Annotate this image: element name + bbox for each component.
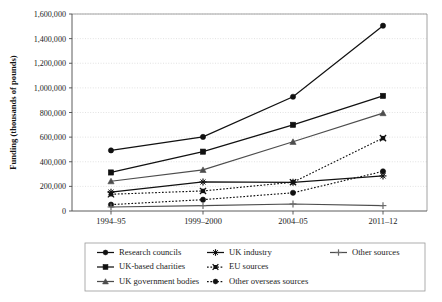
series-group xyxy=(108,93,385,175)
series-polyline xyxy=(111,138,383,194)
legend-entry-label: UK-based charities xyxy=(119,261,186,271)
legend-entry[interactable]: Research councils xyxy=(97,247,182,257)
y-tick-label: 400,000 xyxy=(40,158,66,167)
data-point-circle xyxy=(103,250,108,255)
data-point-square xyxy=(108,170,113,175)
data-point-circle xyxy=(380,23,385,28)
data-point-cross-box xyxy=(200,188,206,194)
data-point-circle xyxy=(108,148,113,153)
legend-entry[interactable]: Other overseas sources xyxy=(207,276,309,286)
legend-entry-label: Research councils xyxy=(119,247,182,257)
data-point-circle xyxy=(290,94,295,99)
data-point-triangle xyxy=(380,110,386,116)
series-group xyxy=(108,110,386,184)
y-axis-title-text: Funding (thousands of pounds) xyxy=(8,55,18,170)
data-point-square xyxy=(103,265,108,270)
data-point-asterisk xyxy=(200,178,207,185)
data-point-square xyxy=(380,93,385,98)
data-point-circle xyxy=(213,279,218,284)
x-axis-tick-labels: 1994–951999–20002004–052011–12 xyxy=(96,217,397,226)
legend-entry[interactable]: UK government bodies xyxy=(97,276,200,286)
chart-legend: Research councilsUK industryOther source… xyxy=(85,243,425,291)
chart-canvas: 0200,000400,000600,000800,0001,000,0001,… xyxy=(0,0,442,302)
series-polyline xyxy=(111,96,383,173)
series-polyline xyxy=(111,176,383,192)
data-point-cross-box xyxy=(380,135,386,141)
legend-entry-label: Other sources xyxy=(352,247,400,257)
series-group xyxy=(108,172,387,195)
funding-line-chart: 0200,000400,000600,000800,0001,000,0001,… xyxy=(0,0,442,302)
y-axis-title: Funding (thousands of pounds) xyxy=(8,55,18,170)
data-point-circle xyxy=(200,197,205,202)
data-point-plus xyxy=(290,201,297,208)
data-point-square xyxy=(200,149,205,154)
legend-entry[interactable]: EU sources xyxy=(207,261,269,271)
y-tick-label: 0 xyxy=(62,207,66,216)
series-lines xyxy=(108,23,387,210)
y-tick-label: 200,000 xyxy=(40,182,66,191)
data-point-asterisk xyxy=(212,249,219,256)
series-polyline xyxy=(111,113,383,181)
data-point-plus xyxy=(200,202,207,209)
y-axis-tick-labels: 0200,000400,000600,000800,0001,000,0001,… xyxy=(34,10,66,216)
y-tick-label: 1,200,000 xyxy=(34,59,66,68)
legend-entry-label: UK industry xyxy=(229,247,272,257)
y-tick-label: 800,000 xyxy=(40,109,66,118)
x-tick-label: 2011–12 xyxy=(368,217,397,226)
x-tick-label: 1999–2000 xyxy=(184,217,222,226)
legend-entry[interactable]: UK-based charities xyxy=(97,261,186,271)
axis-ticks xyxy=(69,14,383,215)
data-point-cross-box xyxy=(108,191,114,197)
data-point-circle xyxy=(290,190,295,195)
data-point-plus xyxy=(335,249,341,255)
data-point-circle xyxy=(200,134,205,139)
series-polyline xyxy=(111,204,383,207)
y-tick-label: 1,600,000 xyxy=(34,10,66,19)
x-tick-label: 1994–95 xyxy=(96,217,125,226)
legend-entry-label: EU sources xyxy=(229,261,269,271)
legend-entry[interactable]: UK industry xyxy=(207,247,272,257)
data-point-square xyxy=(290,122,295,127)
gridlines xyxy=(72,14,427,186)
legend-entry[interactable]: Other sources xyxy=(330,247,400,257)
y-tick-label: 1,400,000 xyxy=(34,35,66,44)
y-tick-label: 600,000 xyxy=(40,133,66,142)
x-tick-label: 2004–05 xyxy=(278,217,307,226)
y-tick-label: 1,000,000 xyxy=(34,84,66,93)
data-point-plus xyxy=(380,202,387,209)
legend-entry-label: Other overseas sources xyxy=(229,276,309,286)
legend-entry-label: UK government bodies xyxy=(119,276,200,286)
data-point-cross-box xyxy=(290,179,296,185)
data-point-circle xyxy=(380,169,385,174)
